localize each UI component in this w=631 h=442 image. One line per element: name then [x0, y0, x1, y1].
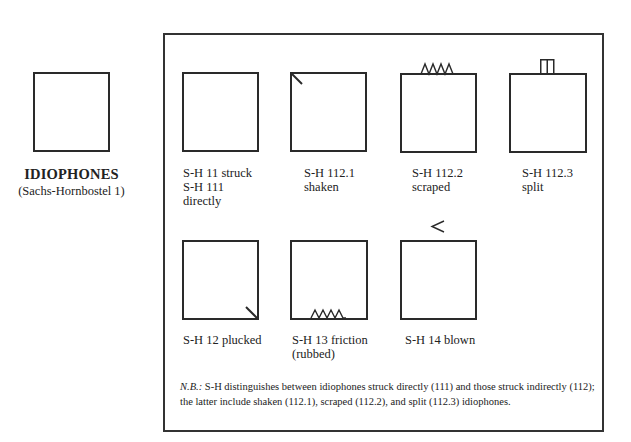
- category-title: IDIOPHONES: [0, 166, 143, 183]
- footnote-prefix: N.B.:: [180, 381, 202, 392]
- scraped-label: S-H 112.2 scraped: [412, 166, 463, 194]
- struck-label: S-H 11 struck S-H 111 directly: [183, 166, 252, 208]
- friction-label: S-H 13 friction (rubbed): [292, 333, 368, 361]
- shaken-diagonal-mark-icon: [290, 72, 310, 92]
- plucked-diagonal-mark-icon: [245, 306, 259, 320]
- split-tab-mark-icon: [540, 59, 556, 75]
- scraped-symbol-box: [400, 73, 477, 153]
- split-symbol-box: [509, 73, 587, 153]
- footnote: N.B.: S-H distinguishes between idiophon…: [180, 380, 600, 409]
- blown-label: S-H 14 blown: [405, 333, 475, 347]
- category-subtitle: (Sachs-Hornbostel 1): [0, 184, 143, 199]
- shaken-label: S-H 112.1 shaken: [304, 166, 355, 194]
- scraped-zigzag-mark-icon: [421, 63, 461, 75]
- category-label: IDIOPHONES (Sachs-Hornbostel 1): [0, 166, 143, 199]
- idiophones-symbol-box: [33, 72, 110, 152]
- split-label: S-H 112.3 split: [522, 166, 573, 194]
- plucked-label: S-H 12 plucked: [183, 333, 261, 347]
- blown-symbol-box: [400, 240, 477, 320]
- friction-zigzag-mark-icon: [311, 309, 351, 319]
- friction-symbol-box: [290, 240, 368, 320]
- blown-chevron-mark-icon: [430, 220, 446, 234]
- footnote-text: S-H distinguishes between idiophones str…: [180, 381, 595, 407]
- struck-symbol-box: [182, 72, 259, 152]
